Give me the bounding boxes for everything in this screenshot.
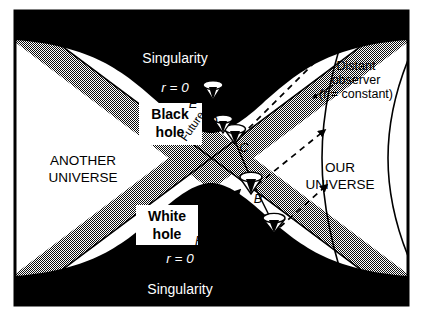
light-cone-label-B: B <box>254 191 263 206</box>
light-cone-label-C: C <box>239 140 249 155</box>
our-universe-label-line1: OUR <box>325 160 355 175</box>
light-cone-label-A: A <box>277 231 287 246</box>
white-hole-label-group: White hole <box>136 205 198 245</box>
our-universe-label-line2: UNIVERSE <box>305 177 374 192</box>
distant-observer-label-line1: Distant <box>337 59 376 73</box>
light-cone-label-E: E <box>189 96 198 111</box>
light-cone-label-F: F <box>195 233 204 248</box>
another-universe-label-line1: ANOTHER <box>50 153 116 168</box>
light-cone-label-D: D <box>208 113 217 128</box>
figure-canvas: Singularity r = 0 Singularity r = 0 Blac… <box>0 0 423 335</box>
kruskal-diagram-svg: Singularity r = 0 Singularity r = 0 Blac… <box>0 0 423 335</box>
distant-observer-radius-label: (r = constant) <box>319 87 393 101</box>
another-universe-label-line2: UNIVERSE <box>48 170 117 185</box>
white-hole-label-line1: White <box>148 208 186 224</box>
white-hole-label-line2: hole <box>153 226 182 242</box>
distant-observer-label-line2: observer <box>332 73 381 87</box>
upper-singularity-label: Singularity <box>142 50 207 66</box>
upper-singularity-radius-label: r = 0 <box>161 80 189 95</box>
lower-singularity-label: Singularity <box>147 281 212 297</box>
lower-singularity-radius-label: r = 0 <box>166 251 194 266</box>
black-hole-label-line1: Black <box>151 106 189 122</box>
plot-area: Singularity r = 0 Singularity r = 0 Blac… <box>15 11 408 312</box>
